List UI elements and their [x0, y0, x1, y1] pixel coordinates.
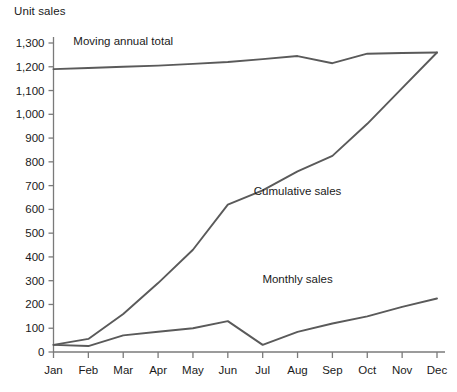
- series-label-group: Moving annual totalCumulative salesMonth…: [73, 35, 341, 285]
- y-axis-tick-label: 400: [25, 251, 44, 263]
- x-axis-tick-label: Feb: [78, 364, 98, 376]
- y-axis-tick-label: 700: [25, 180, 44, 192]
- y-axis-tick-label: 1,000: [16, 108, 45, 120]
- y-axis-tick-label: 1,100: [16, 85, 45, 97]
- series-line-moving-annual-total: [54, 53, 438, 70]
- y-axis-tick-label: 100: [25, 322, 44, 334]
- x-axis-tick-label: Sep: [322, 364, 342, 376]
- x-axis-tick-label: Jan: [44, 364, 63, 376]
- y-axis-tick-label: 600: [25, 203, 44, 215]
- series-annotation-monthly-sales: Monthly sales: [262, 273, 333, 285]
- chart-container: Unit sales 01002003004005006007008009001…: [0, 0, 457, 392]
- x-axis-tick-label: Nov: [392, 364, 413, 376]
- y-axis-tick-label: 300: [25, 275, 44, 287]
- y-axis-tick-label: 800: [25, 156, 44, 168]
- y-axis-tick-label: 500: [25, 227, 44, 239]
- series-annotation-moving-annual-total: Moving annual total: [73, 35, 173, 47]
- series-line-cumulative-sales: [54, 53, 438, 345]
- y-axis-tick-group: 01002003004005006007008009001,0001,1001,…: [16, 37, 54, 358]
- x-axis-tick-group: JanFebMarAprMayJunJulAugSepOctNovDec: [44, 352, 447, 376]
- x-axis-tick-label: Aug: [287, 364, 307, 376]
- y-axis-tick-label: 0: [38, 346, 44, 358]
- x-axis-tick-label: Oct: [358, 364, 377, 376]
- x-axis-tick-label: May: [182, 364, 204, 376]
- x-axis-tick-label: Mar: [113, 364, 133, 376]
- x-axis-tick-label: Jul: [255, 364, 270, 376]
- y-axis-tick-label: 900: [25, 132, 44, 144]
- x-axis-tick-label: Dec: [427, 364, 448, 376]
- y-axis-tick-label: 1,200: [16, 61, 45, 73]
- y-axis-tick-label: 200: [25, 298, 44, 310]
- y-axis-tick-label: 1,300: [16, 37, 45, 49]
- x-axis-tick-label: Apr: [149, 364, 167, 376]
- series-annotation-cumulative-sales: Cumulative sales: [254, 185, 342, 197]
- data-series-group: [54, 53, 438, 347]
- x-axis-tick-label: Jun: [219, 364, 238, 376]
- line-chart-plot: 01002003004005006007008009001,0001,1001,…: [0, 0, 457, 392]
